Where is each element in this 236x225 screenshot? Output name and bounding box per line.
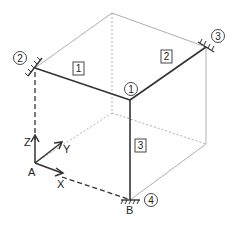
node-label-3: 3 [212, 30, 225, 43]
member-label-1: 1 [73, 62, 84, 75]
dashed-reference-lines [35, 72, 128, 199]
svg-text:3: 3 [138, 140, 144, 151]
point-label-b: B [126, 204, 133, 216]
fixed-support-node-2 [25, 57, 42, 76]
frame-diagram: 1 2 3 1 2 3 4 A B Z Y X [0, 0, 236, 225]
x-axis-arrow [35, 163, 62, 173]
point-label-a: A [28, 166, 36, 178]
svg-text:1: 1 [128, 84, 134, 95]
node-label-1: 1 [125, 83, 138, 96]
svg-text:1: 1 [76, 63, 82, 74]
node-label-4: 4 [145, 194, 158, 207]
axis-label-z: Z [24, 136, 31, 148]
y-axis-arrow [35, 143, 61, 163]
member-label-3: 3 [135, 139, 146, 152]
svg-text:2: 2 [17, 53, 23, 64]
axis-label-y: Y [63, 143, 71, 155]
member-label-2: 2 [161, 50, 172, 63]
axis-label-x: X [57, 178, 65, 190]
node-label-2: 2 [14, 52, 27, 65]
svg-text:3: 3 [215, 31, 221, 42]
svg-text:4: 4 [148, 195, 154, 206]
svg-text:2: 2 [164, 51, 170, 62]
